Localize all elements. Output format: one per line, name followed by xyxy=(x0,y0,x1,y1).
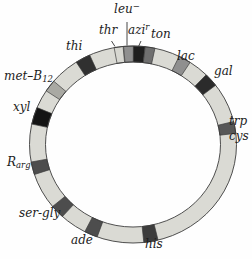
ring-inner-outline xyxy=(46,62,221,227)
locus-label-ade: ade xyxy=(71,234,93,247)
locus-label-met-b12: met–B12 xyxy=(4,70,53,83)
tick-line-thr xyxy=(112,41,116,47)
locus-label-ton: ton xyxy=(151,28,171,41)
locus-label-xyl: xyl xyxy=(13,101,30,114)
locus-label-cys: cys xyxy=(229,130,249,143)
locus-label-r-arg: Rarg xyxy=(7,156,31,169)
locus-label-ser-gly: ser-gly xyxy=(19,207,60,220)
locus-label-gal: gal xyxy=(214,65,233,78)
locus-label-leu: leu− xyxy=(108,3,146,16)
locus-label-his: his xyxy=(145,238,163,251)
locus-label-thi: thi xyxy=(66,40,82,53)
chromosome-ring-diagram xyxy=(0,0,252,259)
locus-label-lac: lac xyxy=(177,50,195,63)
tick-line-azi xyxy=(139,41,142,47)
locus-label-azi: azir xyxy=(128,24,149,37)
locus-label-thr: thr xyxy=(99,24,117,37)
locus-label-trp: trp xyxy=(229,115,247,128)
segment-leu xyxy=(124,46,134,62)
genetic-map-figure: leu− thr azir ton lac gal trp cys his ad… xyxy=(0,0,252,259)
